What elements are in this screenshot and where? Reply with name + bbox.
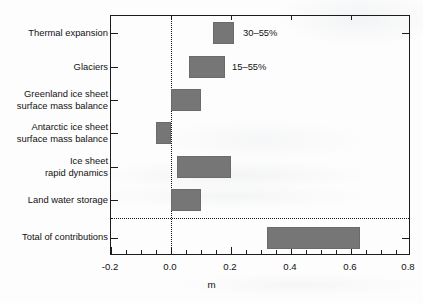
x-minor-tick [201, 250, 202, 254]
plot-area [110, 15, 410, 255]
x-minor-tick [186, 250, 187, 254]
x-top-tick-0.6 [351, 16, 352, 20]
y-tick-right-thermal-expansion [402, 33, 409, 34]
y-tick-ice-sheet-rapid-dynamics [111, 167, 118, 168]
category-label-line1: Ice sheet [45, 155, 108, 167]
annotation-glaciers: 15–55% [232, 61, 266, 72]
sea-level-contributions-chart: Thermal expansion Glaciers Greenland ice… [0, 0, 423, 303]
zero-reference-line [171, 16, 172, 254]
x-tick-label-0.2: 0.2 [210, 261, 250, 272]
y-tick-total-of-contributions [111, 238, 118, 239]
x-minor-tick [366, 250, 367, 254]
x-top-tick-0.2 [231, 16, 232, 20]
x-axis-title: m [0, 279, 423, 290]
x-minor-tick [381, 250, 382, 254]
x-major-tick-0.2 [231, 247, 232, 254]
y-tick-land-water-storage [111, 200, 118, 201]
x-minor-tick [141, 250, 142, 254]
category-label-line1: Thermal expansion [28, 27, 108, 39]
x-minor-tick [306, 250, 307, 254]
x-major-tick--0.2 [111, 247, 112, 254]
bar-glaciers [189, 56, 225, 78]
x-minor-tick [261, 250, 262, 254]
bar-ice-sheet-rapid-dynamics [177, 156, 231, 178]
x-minor-tick [321, 250, 322, 254]
bar-land-water-storage [171, 189, 201, 211]
x-minor-tick [126, 250, 127, 254]
category-label-thermal-expansion: Thermal expansion [28, 27, 108, 39]
bar-antarctic-smb [156, 122, 171, 144]
x-tick-label-0.8: 0.8 [388, 261, 423, 272]
bar-thermal-expansion [213, 22, 234, 44]
category-label-line2: surface mass balance [17, 133, 108, 145]
y-tick-glaciers [111, 67, 118, 68]
x-tick-label-0.0: 0.0 [150, 261, 190, 272]
category-label-glaciers: Glaciers [74, 61, 108, 73]
x-top-tick-0.4 [291, 16, 292, 20]
category-label-land-water-storage: Land water storage [28, 194, 108, 206]
x-minor-tick [276, 250, 277, 254]
annotation-thermal-expansion: 30–55% [243, 27, 277, 38]
bar-total-of-contributions [267, 227, 360, 249]
x-tick-label-0.4: 0.4 [270, 261, 310, 272]
y-tick-thermal-expansion [111, 33, 118, 34]
y-tick-right-total-of-contributions [402, 238, 409, 239]
category-label-line1: Land water storage [28, 194, 108, 206]
x-major-tick-0.8 [409, 247, 410, 254]
category-label-ice-sheet-rapid-dynamics: Ice sheet rapid dynamics [45, 155, 108, 178]
total-separator-line [111, 218, 409, 219]
category-label-line1: Glaciers [74, 61, 108, 73]
x-tick-label-0.6: 0.6 [330, 261, 370, 272]
x-tick-label--0.2: -0.2 [90, 261, 130, 272]
x-minor-tick [156, 250, 157, 254]
category-label-total-of-contributions: Total of contributions [22, 231, 108, 243]
category-label-line2: rapid dynamics [45, 167, 108, 179]
x-minor-tick [396, 250, 397, 254]
y-tick-greenland-smb [111, 100, 118, 101]
category-label-antarctic-smb: Antarctic ice sheet surface mass balance [17, 121, 108, 144]
category-label-line1: Greenland ice sheet [17, 88, 108, 100]
x-minor-tick [246, 250, 247, 254]
category-label-line1: Total of contributions [22, 231, 108, 243]
bar-greenland-smb [171, 89, 201, 111]
x-minor-tick [336, 250, 337, 254]
category-label-line2: surface mass balance [17, 100, 108, 112]
y-tick-antarctic-smb [111, 133, 118, 134]
category-label-line1: Antarctic ice sheet [17, 121, 108, 133]
x-minor-tick [216, 250, 217, 254]
category-label-greenland-smb: Greenland ice sheet surface mass balance [17, 88, 108, 111]
